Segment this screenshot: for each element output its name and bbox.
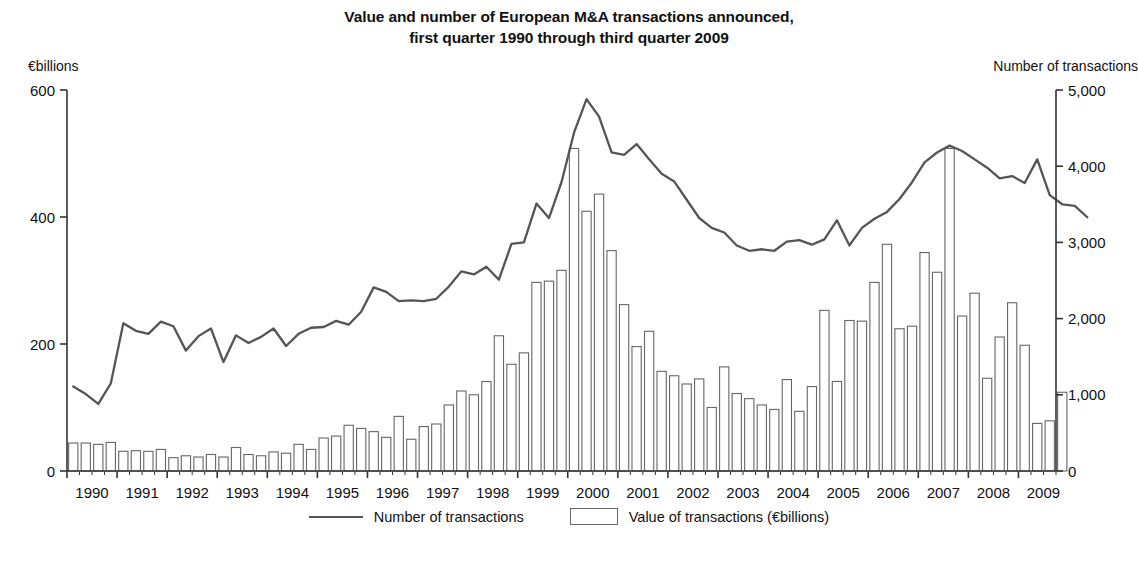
bar-2003Q2[interactable] xyxy=(732,394,741,471)
bar-1996Q3[interactable] xyxy=(394,416,403,471)
bar-1992Q2[interactable] xyxy=(181,456,190,471)
bar-2007Q4[interactable] xyxy=(957,316,966,471)
bar-1995Q4[interactable] xyxy=(357,428,366,471)
bar-1997Q3[interactable] xyxy=(444,405,453,471)
bar-2006Q1[interactable] xyxy=(870,282,879,471)
right-tick-label-1000: 1,000 xyxy=(1068,386,1106,403)
bar-1998Q1[interactable] xyxy=(469,395,478,471)
bar-1990Q4[interactable] xyxy=(106,442,115,471)
bar-1995Q1[interactable] xyxy=(319,438,328,471)
bar-1997Q1[interactable] xyxy=(419,427,428,471)
bar-1993Q3[interactable] xyxy=(244,454,253,471)
bar-2000Q3[interactable] xyxy=(594,194,603,471)
bar-1999Q1[interactable] xyxy=(519,353,528,471)
bar-2005Q4[interactable] xyxy=(857,321,866,471)
bar-2009Q2[interactable] xyxy=(1033,423,1042,471)
bar-2000Q4[interactable] xyxy=(607,251,616,471)
bar-1990Q3[interactable] xyxy=(94,444,103,471)
x-axis-label-2009: 2009 xyxy=(1027,484,1060,501)
bar-1994Q1[interactable] xyxy=(269,452,278,471)
bar-2007Q1[interactable] xyxy=(920,253,929,471)
bar-1999Q2[interactable] xyxy=(532,282,541,471)
bar-1998Q4[interactable] xyxy=(507,364,516,471)
bar-2007Q3[interactable] xyxy=(945,148,954,471)
bar-1996Q2[interactable] xyxy=(382,437,391,471)
bar-2009Q3[interactable] xyxy=(1045,421,1054,471)
x-axis-label-1994: 1994 xyxy=(276,484,309,501)
legend-entry-bar[interactable]: Value of transactions (€billions) xyxy=(570,508,829,525)
x-axis-label-1992: 1992 xyxy=(176,484,209,501)
bar-1993Q1[interactable] xyxy=(219,457,228,471)
x-axis-label-1990: 1990 xyxy=(75,484,108,501)
bar-1997Q4[interactable] xyxy=(457,391,466,471)
bar-2008Q4[interactable] xyxy=(1008,303,1017,471)
bar-2001Q2[interactable] xyxy=(632,347,641,471)
x-axis-label-2007: 2007 xyxy=(927,484,960,501)
bar-1992Q4[interactable] xyxy=(206,454,215,471)
legend-label-line: Number of transactions xyxy=(374,509,524,525)
left-tick-label-600: 600 xyxy=(30,82,55,99)
bar-2001Q4[interactable] xyxy=(657,371,666,471)
legend-entry-line[interactable]: Number of transactions xyxy=(309,509,524,525)
bar-2009Q1[interactable] xyxy=(1020,345,1029,471)
bar-1994Q2[interactable] xyxy=(281,453,290,471)
bar-1993Q2[interactable] xyxy=(231,448,240,472)
bar-swatch-icon xyxy=(570,508,618,525)
bar-1991Q4[interactable] xyxy=(156,449,165,471)
bar-2000Q2[interactable] xyxy=(582,211,591,471)
bar-1991Q2[interactable] xyxy=(131,451,140,471)
bar-2008Q2[interactable] xyxy=(983,378,992,471)
bar-1996Q1[interactable] xyxy=(369,432,378,471)
bar-1994Q4[interactable] xyxy=(306,449,315,471)
bar-1990Q2[interactable] xyxy=(81,443,90,471)
bar-1991Q1[interactable] xyxy=(119,451,128,471)
bar-2005Q3[interactable] xyxy=(845,321,854,472)
bar-1995Q3[interactable] xyxy=(344,425,353,471)
bar-2002Q3[interactable] xyxy=(695,379,704,471)
bar-1996Q4[interactable] xyxy=(407,439,416,471)
bar-2006Q3[interactable] xyxy=(895,329,904,471)
x-axis-label-1995: 1995 xyxy=(326,484,359,501)
x-axis-label-2003: 2003 xyxy=(726,484,759,501)
bar-2005Q2[interactable] xyxy=(832,381,841,471)
bar-1998Q2[interactable] xyxy=(482,381,491,471)
bar-1999Q4[interactable] xyxy=(557,270,566,471)
bar-2003Q4[interactable] xyxy=(757,405,766,471)
x-axis-label-1999: 1999 xyxy=(526,484,559,501)
right-tick-label-0: 0 xyxy=(1068,463,1076,480)
bar-2004Q4[interactable] xyxy=(807,387,816,471)
chart-legend: Number of transactions Value of transact… xyxy=(0,508,1138,525)
bar-2001Q1[interactable] xyxy=(619,305,628,471)
bar-2004Q1[interactable] xyxy=(770,409,779,471)
bar-1997Q2[interactable] xyxy=(432,424,441,471)
bar-2003Q3[interactable] xyxy=(745,399,754,471)
bar-2000Q1[interactable] xyxy=(569,148,578,471)
x-axis-label-1997: 1997 xyxy=(426,484,459,501)
bar-1998Q3[interactable] xyxy=(494,336,503,471)
bar-1992Q1[interactable] xyxy=(169,458,178,471)
bar-1993Q4[interactable] xyxy=(256,456,265,471)
bar-2007Q2[interactable] xyxy=(932,272,941,471)
bar-2008Q3[interactable] xyxy=(995,337,1004,471)
bar-2005Q1[interactable] xyxy=(820,310,829,471)
x-axis-label-2002: 2002 xyxy=(676,484,709,501)
bar-1999Q3[interactable] xyxy=(544,281,553,471)
bar-2002Q4[interactable] xyxy=(707,408,716,472)
right-tick-label-5000: 5,000 xyxy=(1068,82,1106,99)
bar-1995Q2[interactable] xyxy=(332,436,341,471)
x-axis-label-2004: 2004 xyxy=(776,484,809,501)
bar-2008Q1[interactable] xyxy=(970,293,979,471)
bar-1994Q3[interactable] xyxy=(294,444,303,471)
bar-2002Q1[interactable] xyxy=(670,376,679,471)
bar-2006Q4[interactable] xyxy=(907,326,916,471)
bar-1992Q3[interactable] xyxy=(194,457,203,471)
bar-2004Q3[interactable] xyxy=(795,411,804,471)
bar-1991Q3[interactable] xyxy=(144,451,153,471)
bar-2001Q3[interactable] xyxy=(645,331,654,471)
bar-undefined[interactable] xyxy=(1058,392,1067,471)
bar-2006Q2[interactable] xyxy=(882,244,891,471)
bar-1990Q1[interactable] xyxy=(69,443,78,471)
bar-2004Q2[interactable] xyxy=(782,380,791,471)
bar-2002Q2[interactable] xyxy=(682,384,691,471)
bar-2003Q1[interactable] xyxy=(720,367,729,471)
